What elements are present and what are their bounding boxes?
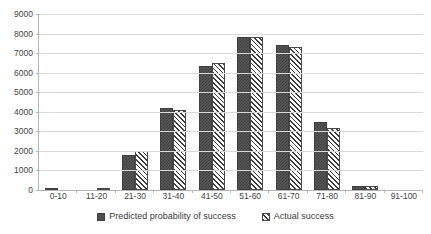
y-axis-tick-label: 3000 [14,127,33,136]
y-axis-tick-mark [36,34,39,35]
bar-group [193,14,231,190]
bar-predicted [160,108,173,190]
x-axis-tick-label: 81-90 [346,192,384,201]
y-axis-tick-mark [36,73,39,74]
bar-chart: 0100020003000400050006000700080009000 0-… [0,0,431,234]
x-axis-tick-label: 71-80 [308,192,346,201]
y-axis-tick-mark [36,131,39,132]
y-axis-tick-mark [36,112,39,113]
plot-wrapper: 0100020003000400050006000700080009000 0-… [0,0,431,200]
bar-predicted [237,37,250,190]
bars-layer [39,14,423,190]
gridline [39,170,423,171]
hatched-swatch [262,213,270,221]
bar-group [154,14,192,190]
legend-label: Actual success [274,212,334,221]
bar-predicted [122,155,135,190]
y-axis-tick-label: 4000 [14,108,33,117]
y-axis-tick-label: 8000 [14,29,33,38]
y-axis-tick-mark [36,170,39,171]
bar-group [39,14,77,190]
bar-group [308,14,346,190]
chart-legend: Predicted probability of successActual s… [0,212,431,221]
y-axis-tick-label: 1000 [14,166,33,175]
legend-label: Predicted probability of success [109,212,236,221]
x-axis-tick-label: 21-30 [116,192,154,201]
y-axis-tick-mark [36,53,39,54]
y-axis-tick-label: 9000 [14,10,33,19]
y-axis: 0100020003000400050006000700080009000 [0,0,36,200]
x-axis-tick-label: 51-60 [231,192,269,201]
gridline [39,34,423,35]
y-axis-tick-mark [36,151,39,152]
legend-entry[interactable]: Actual success [262,212,334,221]
x-axis-tick-label: 0-10 [39,192,77,201]
x-axis-tick-label: 91-100 [385,192,423,201]
gridline [39,73,423,74]
bar-group [346,14,384,190]
bar-group [116,14,154,190]
bar-group [231,14,269,190]
x-axis: 0-1011-2021-3031-4041-5051-6061-7071-808… [39,192,423,201]
checkered-swatch [97,213,105,221]
bar-actual [327,128,340,190]
bar-group [77,14,115,190]
x-axis-tick-label: 11-20 [77,192,115,201]
y-axis-tick-label: 2000 [14,147,33,156]
y-axis-tick-label: 5000 [14,88,33,97]
gridline [39,92,423,93]
x-axis-tick-label: 41-50 [193,192,231,201]
y-axis-tick-label: 0 [28,186,33,195]
y-axis-tick-label: 7000 [14,49,33,58]
x-axis-tick-label: 61-70 [269,192,307,201]
bar-group [269,14,307,190]
y-axis-tick-mark [36,14,39,15]
gridline [39,53,423,54]
gridline [39,14,423,15]
bar-actual [289,47,302,190]
gridline [39,151,423,152]
gridline [39,112,423,113]
y-axis-tick-label: 6000 [14,68,33,77]
x-axis-tick-label: 31-40 [154,192,192,201]
gridline [39,131,423,132]
legend-entry[interactable]: Predicted probability of success [97,212,236,221]
plot-area [38,14,423,191]
y-axis-tick-mark [36,92,39,93]
bar-actual [250,37,263,190]
bar-predicted [276,45,289,190]
bar-group [385,14,423,190]
